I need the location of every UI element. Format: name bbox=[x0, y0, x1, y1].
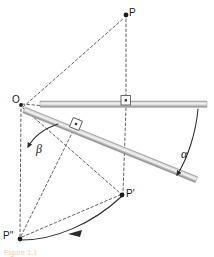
tilted-bar-body bbox=[23, 107, 198, 182]
dot-P-double-prime bbox=[18, 237, 23, 242]
label-point-O: O bbox=[12, 95, 20, 105]
trajectory-arc-arrow bbox=[68, 230, 82, 237]
label-point-P: P bbox=[129, 8, 136, 18]
beta-arc bbox=[28, 124, 58, 147]
dot-P bbox=[124, 13, 129, 18]
right-angle-dot bbox=[125, 99, 127, 101]
figure-caption: Figure 1.1 bbox=[4, 249, 38, 256]
tilted-bar bbox=[23, 107, 198, 182]
label-point-P-prime: P' bbox=[126, 189, 135, 199]
dash-O-to-Pdoubleprime bbox=[20, 109, 21, 236]
label-angle-beta: β bbox=[36, 143, 42, 155]
right-angle-on-horizontal-bar bbox=[121, 96, 131, 106]
dot-P-prime bbox=[120, 193, 125, 198]
dash-O-to-P bbox=[23, 18, 124, 107]
dash-Pdoubleprime-to-Pprime bbox=[22, 195, 120, 237]
alpha-arc bbox=[177, 109, 198, 175]
beta-arc-path bbox=[28, 124, 58, 147]
dash-Pdoubleprime-to-marker bbox=[21, 119, 79, 236]
geometry-figure: P O P' P'' α β Figure 1.1 bbox=[0, 0, 214, 257]
alpha-arc-path bbox=[177, 109, 198, 175]
label-angle-alpha: α bbox=[181, 148, 187, 160]
figure-canvas bbox=[0, 0, 214, 257]
label-point-P-double-prime: P'' bbox=[3, 231, 14, 241]
